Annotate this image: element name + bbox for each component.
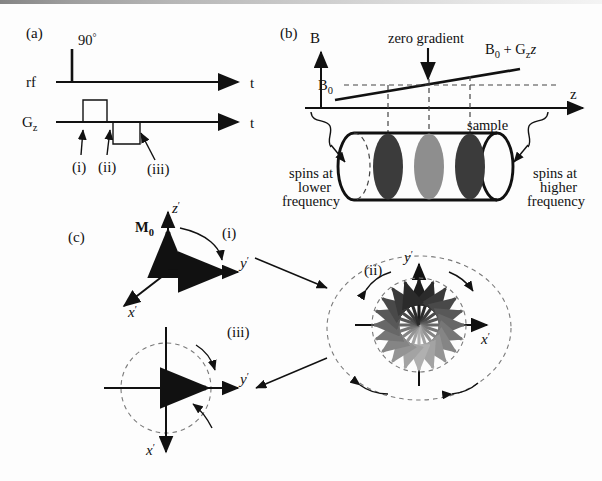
gz-axis-label: Gz [22,114,38,133]
rf-time-label: t [250,75,255,91]
marker-i-arrow [81,130,83,155]
marker-i-label: (i) [72,159,86,176]
panel-a-graphic: (a) rf t 90° Gz t (i) (ii) (iii) (b) B [0,0,602,481]
right-annotation-line-3: frequency [527,193,586,209]
cylinder-left-cap-front [338,133,354,200]
right-annotation-arrow [514,145,528,162]
gz-time-label: t [250,115,255,131]
marker-ii-arrow [107,130,110,155]
marker-ii-label: (ii) [98,159,116,176]
marker-iii-arrow [141,133,155,160]
panel-c-letter: (c) [68,229,85,246]
cylinder-left-cap-back [354,133,370,200]
panel-a-letter: (a) [26,25,43,42]
slice-ellipse-1 [373,134,403,200]
figure-canvas: (a) rf t 90° Gz t (i) (ii) (iii) (b) B [0,0,602,481]
step-ii-group: (ii) y′ x′ [327,249,511,400]
connector-ii-to-iii [256,358,327,388]
step-ii-x-axis-label: x′ [480,331,490,347]
step-iii-rotation-arc-bottom [193,404,212,428]
step-i-label: (i) [222,225,236,242]
zero-gradient-label: zero gradient [388,30,464,46]
step-ii-rotation-arc-topright [449,272,473,291]
gz-negative-lobe [113,122,140,144]
slice-ellipse-3 [455,134,485,200]
marker-iii-label: (iii) [147,161,170,178]
panel-b-x-axis-label: z [570,86,577,102]
m0-label: M0 [135,219,154,238]
cylinder-right-cap [481,133,513,200]
m0-rotation-arc [180,228,222,260]
dephased-spin-fan [374,280,464,370]
slice-ellipse-2 [414,134,444,200]
step-i-group: (i) z′ y′ x′ M0 [124,200,249,320]
connector-i-to-ii [255,258,327,288]
rf-90-pulse-label: 90° [78,32,97,48]
sample-label: sample [467,117,508,133]
step-i-x-axis-label: x′ [127,304,137,320]
panel-b-letter: (b) [280,25,298,42]
panel-b-y-axis-label: B [310,30,320,46]
step-iii-x-axis-label: x′ [145,442,155,458]
step-ii-rotation-arc-bottomright [452,383,478,394]
step-i-x-axis [124,272,168,306]
rf-axis-label: rf [26,74,36,90]
step-ii-y-axis-label: y′ [402,249,413,265]
step-i-y-axis-label: y′ [238,255,249,271]
right-annotation-curve [528,112,548,147]
step-i-z-axis-label: z′ [171,200,180,216]
left-annotation-curve [311,112,331,147]
step-iii-y-axis-label: y′ [238,371,249,387]
step-ii-rotation-arc-bottomleft [360,385,388,394]
gradient-field-line-label: B0 + Gzz [485,41,537,60]
left-annotation-line-3: frequency [282,193,341,209]
step-iii-group: (iii) x′ y′ [104,324,250,458]
step-iii-label: (iii) [227,324,250,341]
gz-positive-lobe [83,100,107,122]
